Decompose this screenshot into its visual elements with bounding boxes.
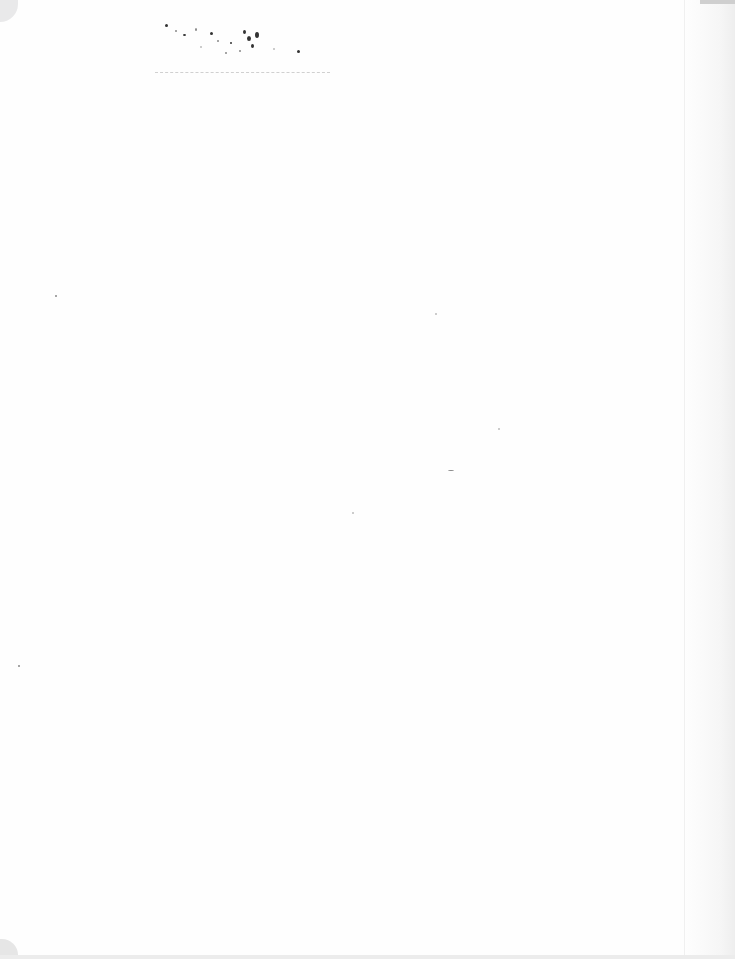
speck [273, 48, 275, 50]
speck [297, 50, 300, 53]
page-corner-top-left [0, 0, 18, 22]
page-bottom-edge [0, 955, 735, 959]
speck [55, 295, 57, 297]
speck [498, 428, 500, 430]
speck [247, 36, 251, 41]
page-right-edge [684, 0, 735, 959]
speck [195, 28, 197, 31]
speck [230, 42, 232, 44]
speck [210, 32, 213, 35]
speck [217, 40, 219, 42]
speck [239, 50, 241, 52]
noisy-stamp-region [155, 12, 330, 73]
scanned-page [0, 0, 735, 959]
speck [18, 665, 20, 667]
speck [225, 52, 227, 54]
speck [448, 470, 454, 471]
speck [352, 512, 354, 514]
speck [251, 44, 254, 48]
speck [183, 34, 186, 36]
speck [200, 46, 202, 48]
page-right-top-edge [700, 0, 735, 4]
speck [175, 30, 177, 32]
speck [165, 24, 168, 27]
speck [243, 30, 246, 34]
speck [435, 313, 437, 315]
speck [255, 32, 259, 38]
